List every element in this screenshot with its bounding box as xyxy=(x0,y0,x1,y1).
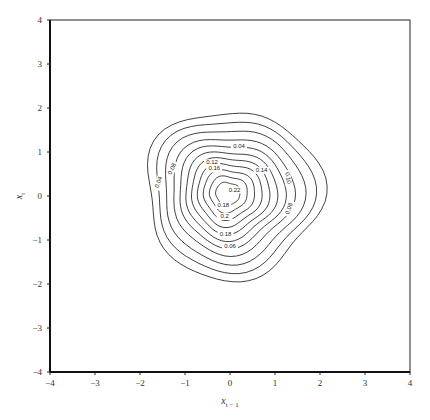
x-tick-label: 1 xyxy=(273,378,278,388)
y-tick-label: 2 xyxy=(38,103,43,113)
x-tick-label: −1 xyxy=(180,378,190,388)
contour-label: 0.14 xyxy=(256,167,268,173)
y-tick-label: 3 xyxy=(38,59,43,69)
y-axis: 43210−1−2−3−4 xyxy=(32,15,50,377)
y-tick-label: −2 xyxy=(32,279,42,289)
y-tick-label: −4 xyxy=(32,367,42,377)
contour-label: 0.06 xyxy=(224,243,236,249)
contour-label: 0.18 xyxy=(220,231,232,237)
y-tick-label: −3 xyxy=(32,323,42,333)
x-tick-label: 3 xyxy=(363,378,368,388)
x-tick-label: 2 xyxy=(318,378,323,388)
x-axis: −4−3−2−101234 xyxy=(45,372,413,388)
y-tick-label: 4 xyxy=(38,15,43,25)
contour-label: 0.2 xyxy=(220,213,229,219)
contour-label: 0.18 xyxy=(217,202,229,208)
contour-label: 0.12 xyxy=(206,159,218,165)
contour-label: 0.16 xyxy=(208,165,220,171)
x-tick-label: 4 xyxy=(408,378,413,388)
plot-area xyxy=(50,20,410,372)
contour-chart: 0.040.040.060.080.080.100.120.140.160.18… xyxy=(0,0,430,420)
contour-label: 0.04 xyxy=(233,143,245,149)
x-tick-label: −4 xyxy=(45,378,55,388)
y-tick-label: 1 xyxy=(38,147,43,157)
x-tick-label: 0 xyxy=(228,378,233,388)
x-tick-label: −2 xyxy=(135,378,145,388)
y-tick-label: −1 xyxy=(32,235,42,245)
x-axis-label: xt − 1 xyxy=(220,395,239,409)
y-axis-label: xt xyxy=(13,193,27,200)
y-tick-label: 0 xyxy=(38,191,43,201)
x-tick-label: −3 xyxy=(90,378,100,388)
contour-label: 0.22 xyxy=(229,187,241,193)
